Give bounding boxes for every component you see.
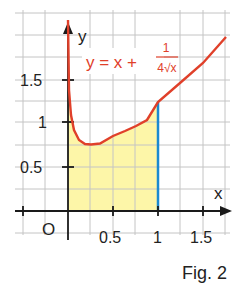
x-axis-label: x xyxy=(214,184,223,203)
x-axis-arrow-icon xyxy=(220,206,232,216)
equation-label: y = x + 1 4√x xyxy=(82,41,178,75)
y-axis-label: y xyxy=(78,27,87,46)
figure-label: Fig. 2 xyxy=(182,263,227,284)
x-tick-1: 1 xyxy=(153,229,162,246)
function-graph: y x O 1.5 1 0.5 0.5 1 1.5 y = x + 1 4√x xyxy=(0,0,235,292)
x-tick-1-5: 1.5 xyxy=(190,229,212,246)
svg-text:y = x +: y = x + xyxy=(86,53,137,72)
svg-text:4√x: 4√x xyxy=(157,61,176,75)
y-tick-1-5: 1.5 xyxy=(20,72,42,89)
origin-label: O xyxy=(42,220,55,239)
y-tick-1: 1 xyxy=(38,114,47,131)
svg-text:1: 1 xyxy=(163,41,170,55)
y-tick-0-5: 0.5 xyxy=(20,159,42,176)
x-tick-0-5: 0.5 xyxy=(99,229,121,246)
